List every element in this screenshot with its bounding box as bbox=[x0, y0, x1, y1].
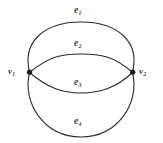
edge-label-e2-base: e bbox=[74, 38, 78, 48]
edge-label-e4-sub: 4 bbox=[79, 121, 82, 127]
edge-label-e1: e1 bbox=[74, 6, 81, 16]
edge-label-e3-base: e bbox=[74, 77, 78, 87]
edge-label-e2-sub: 2 bbox=[79, 43, 82, 49]
edge-label-e4: e4 bbox=[74, 117, 81, 127]
edge-label-e3-sub: 3 bbox=[79, 82, 82, 88]
vertex-label-v2-sub: 2 bbox=[143, 71, 146, 77]
edge-label-e4-base: e bbox=[74, 116, 78, 126]
vertex-label-v2: v2 bbox=[139, 67, 146, 76]
vertex-label-v1-sub: 1 bbox=[12, 71, 15, 77]
graph-figure: e1 e2 e3 e4 v1 v2 bbox=[0, 0, 163, 143]
edge-label-e2: e2 bbox=[74, 39, 81, 49]
vertex-v1-dot bbox=[27, 70, 32, 75]
vertex-v2-dot bbox=[130, 70, 135, 75]
vertex-label-v1: v1 bbox=[8, 67, 15, 76]
edge-label-e3: e3 bbox=[74, 78, 81, 88]
edge-label-e1-sub: 1 bbox=[79, 10, 82, 16]
edge-label-e1-base: e bbox=[74, 5, 78, 15]
edge-e2-path bbox=[30, 54, 133, 73]
